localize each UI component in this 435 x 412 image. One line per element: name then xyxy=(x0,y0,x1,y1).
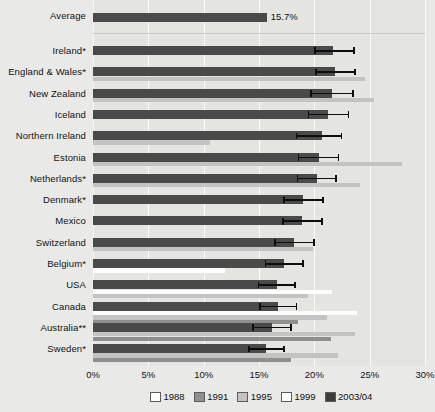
error-bar-cap xyxy=(313,239,315,246)
bar-2003-04 xyxy=(93,110,328,119)
error-bar-cap xyxy=(310,90,312,97)
bar-2003-04 xyxy=(93,302,278,311)
error-bar xyxy=(252,327,290,329)
error-bar-cap xyxy=(341,133,343,140)
error-bar-cap xyxy=(274,239,276,246)
bar-1991 xyxy=(93,337,331,341)
legend-label-1995: 1995 xyxy=(251,391,272,402)
error-bar xyxy=(314,50,353,52)
axis-label-switzerland: Switzerland xyxy=(0,237,86,248)
axis-label-netherlands-: Netherlands* xyxy=(0,173,86,184)
legend-swatch-1995 xyxy=(237,392,248,402)
bar-1999 xyxy=(93,268,225,272)
bar-2003-04 xyxy=(93,259,284,268)
bar-1995 xyxy=(93,294,308,298)
bar-2003-04 xyxy=(93,323,272,332)
error-bar xyxy=(310,93,352,95)
bar-2003-04 xyxy=(93,89,332,98)
error-bar-cap xyxy=(322,197,324,204)
error-bar-cap xyxy=(265,260,267,267)
bar-1995 xyxy=(93,247,313,251)
bar-1995 xyxy=(93,183,360,187)
error-bar xyxy=(259,306,296,308)
average-separator xyxy=(93,33,425,34)
error-bar-cap xyxy=(258,282,260,289)
xtick-25%: 25% xyxy=(358,369,382,380)
axis-label-usa: USA xyxy=(0,279,86,290)
legend-swatch-1988 xyxy=(150,392,161,402)
error-bar-cap xyxy=(297,175,299,182)
error-bar-cap xyxy=(348,111,350,118)
error-bar-cap xyxy=(283,197,285,204)
axis-label-northern-ireland: Northern Ireland xyxy=(0,130,86,141)
axis-label-australia--: Australia** xyxy=(0,322,86,333)
error-bar-cap xyxy=(259,303,261,310)
gridline-25% xyxy=(370,0,371,366)
average-bar xyxy=(93,13,267,22)
error-bar-cap xyxy=(354,69,356,76)
xtick-20%: 20% xyxy=(302,369,326,380)
error-bar xyxy=(298,157,338,159)
legend-swatch-1991 xyxy=(194,392,205,402)
xtick-10%: 10% xyxy=(192,369,216,380)
axis-label-new-zealand: New Zealand xyxy=(0,88,86,99)
error-bar-cap xyxy=(315,69,317,76)
bar-2003-04 xyxy=(93,67,335,76)
legend-item-1988: 1988 xyxy=(150,391,185,402)
axis-label-sweden-: Sweden* xyxy=(0,343,86,354)
error-bar xyxy=(248,348,283,350)
legend-item-1995: 1995 xyxy=(237,391,272,402)
xtick-30%: 30% xyxy=(413,369,435,380)
error-bar-cap xyxy=(298,154,300,161)
error-bar xyxy=(296,135,341,137)
bar-2003-04 xyxy=(93,174,317,183)
error-bar-cap xyxy=(282,218,284,225)
axis-label-estonia: Estonia xyxy=(0,152,86,163)
error-bar xyxy=(265,263,303,265)
legend-item-1991: 1991 xyxy=(194,391,229,402)
legend-item-2003-04: 2003/04 xyxy=(325,391,373,402)
error-bar-cap xyxy=(296,133,298,140)
bar-2003-04 xyxy=(93,195,303,204)
error-bar xyxy=(282,220,321,222)
error-bar-cap xyxy=(248,346,250,353)
error-bar-cap xyxy=(308,111,310,118)
error-bar xyxy=(297,178,336,180)
legend-label-1988: 1988 xyxy=(164,391,185,402)
error-bar-cap xyxy=(352,90,354,97)
legend-item-1999: 1999 xyxy=(281,391,316,402)
error-bar xyxy=(283,199,322,201)
average-value-label: 15.7% xyxy=(271,11,298,22)
error-bar-cap xyxy=(294,282,296,289)
axis-label-denmark-: Denmark* xyxy=(0,194,86,205)
bar-2003-04 xyxy=(93,238,294,247)
axis-label-mexico: Mexico xyxy=(0,215,86,226)
bar-1995 xyxy=(93,98,374,102)
axis-label-belgium-: Belgium* xyxy=(0,258,86,269)
error-bar-cap xyxy=(296,303,298,310)
bar-chart: Average15.7%Ireland*England & Wales*New … xyxy=(0,0,435,412)
bar-2003-04 xyxy=(93,280,277,289)
error-bar-cap xyxy=(321,218,323,225)
bar-1995 xyxy=(93,140,210,144)
xtick-5%: 5% xyxy=(136,369,160,380)
error-bar-cap xyxy=(335,175,337,182)
bar-2003-04 xyxy=(93,153,319,162)
error-bar-cap xyxy=(302,260,304,267)
bar-1995 xyxy=(93,77,365,81)
axis-label-average: Average xyxy=(0,10,86,21)
error-bar-cap xyxy=(252,324,254,331)
bar-2003-04 xyxy=(93,131,322,140)
error-bar xyxy=(315,71,354,73)
legend-label-1999: 1999 xyxy=(294,391,315,402)
error-bar xyxy=(308,114,348,116)
axis-label-canada: Canada xyxy=(0,301,86,312)
error-bar xyxy=(274,242,313,244)
bar-2003-04 xyxy=(93,46,333,55)
axis-label-iceland: Iceland xyxy=(0,109,86,120)
axis-label-england---wales-: England & Wales* xyxy=(0,66,86,77)
legend-label-1991: 1991 xyxy=(207,391,228,402)
legend-label-2003-04: 2003/04 xyxy=(338,391,372,402)
gridline-30% xyxy=(425,0,426,366)
error-bar-cap xyxy=(314,47,316,54)
